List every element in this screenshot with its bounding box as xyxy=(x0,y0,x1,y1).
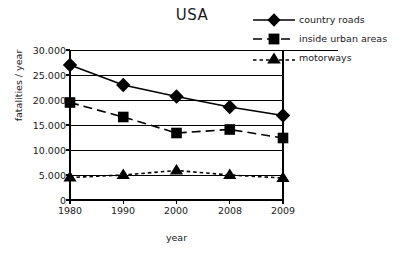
data-point-diamond xyxy=(169,89,183,103)
data-point-square xyxy=(171,128,182,139)
data-point-diamond xyxy=(276,108,290,122)
axis-ticks xyxy=(66,50,283,204)
data-point-triangle xyxy=(63,171,76,181)
gridlines xyxy=(70,50,338,200)
triangle-marker-icon xyxy=(252,49,296,67)
series-inside-urban-areas xyxy=(65,97,289,143)
series-motorways xyxy=(63,164,289,182)
diamond-marker-icon xyxy=(252,11,296,29)
legend-item-motorways[interactable]: motorways xyxy=(252,48,404,67)
data-point-square xyxy=(224,124,235,135)
data-point-square xyxy=(118,112,129,123)
data-point-square xyxy=(65,97,76,108)
data-point-diamond xyxy=(63,58,77,72)
data-point-diamond xyxy=(116,78,130,92)
legend-item-inside-urban-areas[interactable]: inside urban areas xyxy=(252,29,404,48)
data-point-diamond xyxy=(223,100,237,114)
data-point-triangle xyxy=(117,169,130,179)
chart-legend: country roads inside urban areas motorwa… xyxy=(252,10,404,67)
legend-label: country roads xyxy=(296,14,365,25)
legend-item-country-roads[interactable]: country roads xyxy=(252,10,404,29)
data-series-layer xyxy=(63,58,290,182)
axis-frame xyxy=(70,50,283,204)
data-point-triangle xyxy=(276,172,289,182)
data-point-triangle xyxy=(223,169,236,179)
data-point-square xyxy=(278,133,289,144)
chart-figure: USA fatalities / year year 30.000 25.000… xyxy=(0,0,404,259)
legend-label: inside urban areas xyxy=(296,33,387,44)
square-marker-icon xyxy=(252,30,296,48)
series-country-roads xyxy=(63,58,290,123)
data-point-triangle xyxy=(170,164,183,174)
legend-label: motorways xyxy=(296,52,352,63)
